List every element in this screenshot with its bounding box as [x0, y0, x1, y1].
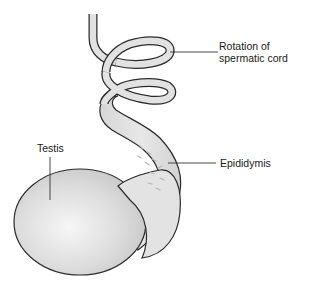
cord-label-line1: Rotation of: [219, 40, 288, 52]
testis-label: Testis: [37, 142, 64, 154]
cord-label-line2: spermatic cord: [219, 52, 288, 64]
epididymis-label: Epididymis: [220, 157, 271, 169]
cord-label: Rotation of spermatic cord: [219, 40, 288, 64]
